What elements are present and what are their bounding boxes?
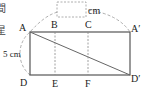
answer-unit-label: cm [88, 5, 100, 16]
label-A: A [19, 22, 27, 33]
label-A-prime: A′ [131, 23, 140, 34]
answer-blank-box [57, 2, 86, 17]
side-length-label: 5 cm [3, 49, 21, 59]
edge-fragment-2: 星 [0, 25, 6, 36]
dashed-arc [20, 10, 130, 75]
edge-fragment-1: 間 [0, 3, 6, 14]
geometry-diagram: 間 星 cm A B C A′ D E F D′ 5 cm [0, 0, 145, 106]
diagonal-AD' [30, 32, 130, 75]
label-C: C [85, 19, 92, 30]
label-D: D [20, 77, 27, 88]
label-D-prime: D′ [131, 73, 140, 84]
label-F: F [85, 78, 91, 89]
label-E: E [52, 78, 58, 89]
label-B: B [51, 19, 58, 30]
